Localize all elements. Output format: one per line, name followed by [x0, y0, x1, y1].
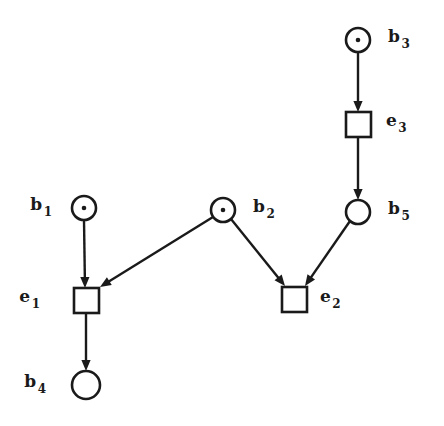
transition-label-e2: e2: [320, 286, 341, 311]
place-b2: [211, 198, 235, 222]
token-dot-b2: [221, 208, 226, 213]
place-label-subscript-b1: 1: [44, 205, 52, 219]
place-circle-b5: [346, 200, 370, 224]
place-label-b5: b5: [388, 198, 410, 223]
token-dot-b1: [82, 206, 87, 211]
arc-line: [231, 219, 279, 279]
arc-b5-to-e2: [305, 221, 350, 286]
transition-e2: [282, 287, 307, 312]
place-label-base-b4: b: [24, 371, 36, 391]
arrowhead-icon: [353, 101, 362, 112]
place-label-b1: b1: [30, 194, 52, 219]
places-layer: [72, 28, 370, 399]
arc-b2-to-e2: [231, 219, 285, 286]
transition-box-e2: [282, 287, 307, 312]
place-label-b2: b2: [253, 196, 275, 221]
petri-net-canvas: b1b2b3b4b5e1e2e3: [0, 0, 444, 426]
place-label-b3: b3: [388, 26, 410, 51]
transition-label-e3: e3: [386, 110, 407, 135]
place-label-subscript-b2: 2: [266, 207, 274, 221]
token-dot-b3: [356, 38, 361, 43]
petri-net-diagram: b1b2b3b4b5e1e2e3: [0, 0, 444, 426]
place-label-subscript-b3: 3: [401, 37, 409, 51]
arc-line: [108, 217, 213, 282]
place-label-base-b2: b: [253, 196, 265, 216]
place-label-subscript-b5: 5: [401, 209, 409, 223]
arrowhead-icon: [80, 277, 89, 288]
arc-line: [310, 221, 350, 279]
transition-label-base-e3: e: [386, 110, 397, 130]
arc-b1-to-e1: [80, 220, 89, 288]
arrowhead-icon: [353, 189, 362, 200]
arc-e1-to-b4: [81, 313, 90, 371]
place-circle-b4: [72, 371, 100, 399]
transition-label-base-e1: e: [19, 286, 30, 306]
transition-label-subscript-e2: 2: [332, 297, 340, 311]
place-b1: [72, 196, 96, 220]
transition-box-e1: [74, 288, 99, 313]
place-label-b4: b4: [24, 371, 46, 396]
place-label-base-b1: b: [30, 194, 42, 214]
transition-e1: [74, 288, 99, 313]
place-label-base-b5: b: [388, 198, 400, 218]
place-label-subscript-b4: 4: [38, 382, 46, 396]
arrowhead-icon: [305, 274, 315, 286]
transition-label-subscript-e3: 3: [398, 121, 406, 135]
arrowhead-icon: [81, 360, 90, 371]
place-b3: [346, 28, 370, 52]
arc-e3-to-b5: [353, 137, 362, 200]
place-label-base-b3: b: [388, 26, 400, 46]
arc-b3-to-e3: [353, 52, 362, 112]
transition-label-subscript-e1: 1: [32, 297, 40, 311]
transition-label-base-e2: e: [320, 286, 331, 306]
transition-box-e3: [346, 112, 371, 137]
transition-e3: [346, 112, 371, 137]
place-b5: [346, 200, 370, 224]
transition-label-e1: e1: [19, 286, 40, 311]
arc-b2-to-e1: [100, 217, 213, 287]
place-b4: [72, 371, 100, 399]
arc-line: [84, 220, 85, 279]
